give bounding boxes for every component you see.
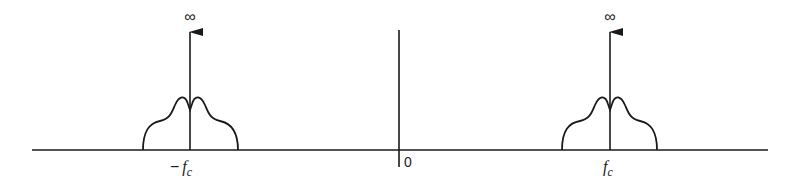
right-infinity-label: ∞: [604, 8, 615, 25]
origin-label: 0: [404, 154, 412, 170]
left-infinity-label: ∞: [184, 8, 195, 25]
svg-text:−fc: −fc: [170, 158, 193, 179]
right-center-frequency-label: fc: [603, 158, 613, 179]
left-center-frequency-label: −fc: [170, 158, 193, 179]
svg-text:fc: fc: [603, 158, 613, 179]
spectrum-diagram: 0 ∞ −fc ∞ fc: [0, 0, 788, 190]
